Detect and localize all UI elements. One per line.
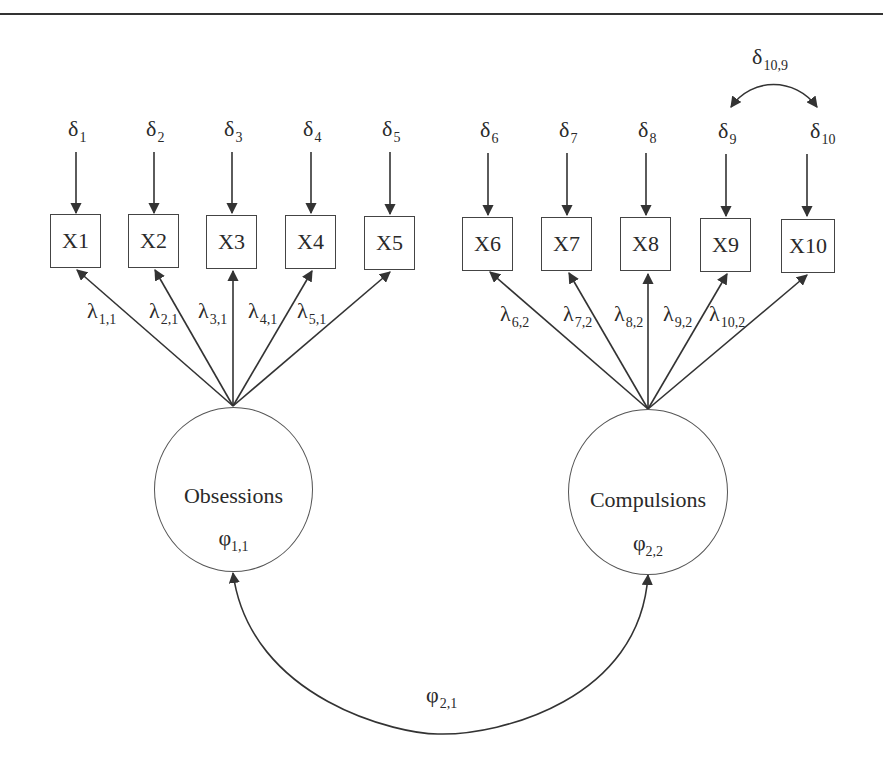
loading-label-1: λ1,1	[87, 300, 116, 327]
error-label-1: δ1	[68, 118, 86, 145]
error-arrows	[76, 152, 807, 216]
error-label-2: δ2	[146, 118, 164, 145]
error-covariance-label: δ10,9	[752, 46, 788, 73]
factor-covariance-label: φ2,1	[426, 684, 457, 711]
indicator-box-x6: X6	[462, 217, 513, 271]
indicator-box-x2: X2	[128, 214, 179, 268]
loading-label-4: λ4,1	[248, 300, 277, 327]
error-label-3: δ3	[224, 118, 242, 145]
loading-label-10: λ10,2	[709, 303, 745, 330]
loading-label-8: λ8,2	[614, 303, 643, 330]
error-label-6: δ6	[480, 119, 498, 146]
loading-arrows	[77, 270, 807, 409]
error-label-4: δ4	[303, 118, 321, 145]
factor-name: Compulsions	[569, 487, 727, 513]
path-diagram	[0, 0, 883, 767]
error-label-9: δ9	[718, 120, 736, 147]
error-covariance-arc	[731, 85, 817, 108]
indicator-box-x10: X10	[781, 219, 835, 273]
error-label-5: δ5	[382, 118, 400, 145]
factor-variance-label: φ1,1	[155, 525, 312, 555]
loading-label-9: λ9,2	[663, 303, 692, 330]
indicator-box-x9: X9	[700, 218, 751, 272]
loading-label-3: λ3,1	[198, 300, 227, 327]
loading-label-2: λ2,1	[149, 300, 178, 327]
error-label-8: δ8	[638, 119, 656, 146]
loading-label-5: λ5,1	[297, 300, 326, 327]
loading-label-6: λ6,2	[500, 303, 529, 330]
indicator-box-x8: X8	[620, 217, 671, 271]
error-label-10: δ10	[810, 120, 835, 147]
loading-label-7: λ7,2	[563, 303, 592, 330]
indicator-box-x5: X5	[364, 216, 415, 270]
factor-variance-label: φ2,2	[569, 530, 727, 560]
factor-name: Obsessions	[155, 483, 312, 509]
indicator-box-x1: X1	[50, 214, 101, 268]
latent-factor-obsessions: Obsessions φ1,1	[154, 407, 313, 572]
error-label-7: δ7	[559, 119, 577, 146]
latent-factor-compulsions: Compulsions φ2,2	[568, 409, 728, 575]
indicator-box-x7: X7	[541, 217, 592, 271]
indicator-box-x3: X3	[206, 215, 257, 269]
indicator-box-x4: X4	[285, 215, 336, 269]
